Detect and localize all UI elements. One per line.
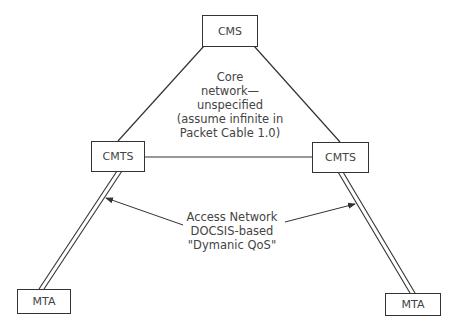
mta-right-node: MTA — [385, 293, 441, 316]
core-line-2: network— — [170, 84, 290, 98]
cmts-left-label: CMTS — [103, 150, 134, 163]
cms-label: CMS — [218, 25, 242, 38]
core-line-3: unspecified — [170, 98, 290, 112]
mta-left-label: MTA — [33, 295, 56, 308]
cmts-right-node: CMTS — [312, 142, 369, 173]
access-line-1: Access Network — [172, 210, 292, 224]
mta-left-node: MTA — [17, 289, 71, 314]
core-line-1: Core — [170, 70, 290, 84]
arrow-to-right-link — [285, 204, 355, 222]
core-line-4: (assume infinite in — [170, 112, 290, 126]
cmts-right-label: CMTS — [325, 151, 356, 164]
mta-right-label: MTA — [402, 298, 425, 311]
connection-lines — [0, 0, 457, 321]
cms-node: CMS — [202, 15, 258, 47]
access-line-3: "Dymanic QoS" — [172, 238, 292, 252]
access-link-left-a — [39, 171, 117, 289]
access-network-label: Access Network DOCSIS-based "Dymanic QoS… — [172, 210, 292, 252]
core-network-label: Core network— unspecified (assume infini… — [170, 70, 290, 140]
core-line-5: Packet Cable 1.0) — [170, 126, 290, 140]
access-link-right-a — [338, 172, 410, 293]
access-link-left-b — [44, 171, 122, 289]
access-line-2: DOCSIS-based — [172, 224, 292, 238]
cmts-left-node: CMTS — [91, 141, 145, 172]
access-link-right-b — [343, 172, 415, 293]
